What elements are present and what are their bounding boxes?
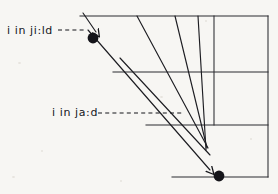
glide-stroke-mid-1: [137, 16, 208, 148]
figure-canvas: i in ji:ld i in ja:d: [0, 0, 278, 194]
marker-dot-lower: [214, 171, 225, 182]
marker-dot-upper: [88, 33, 99, 44]
label-yield: i in ji:ld: [7, 25, 53, 36]
glide-stroke-outer-left: [88, 30, 210, 170]
glide-stroke-mid-3: [198, 16, 206, 150]
label-yard: i in ja:d: [52, 107, 98, 118]
